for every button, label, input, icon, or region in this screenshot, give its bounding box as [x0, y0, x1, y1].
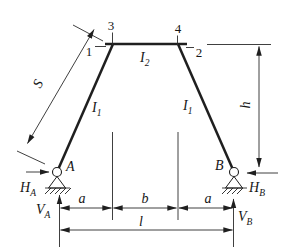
label-dim-b: b — [142, 191, 149, 206]
member-left-leg — [57, 44, 113, 172]
label-reaction-ha: HA — [19, 180, 36, 198]
s-bottom-extension-stub — [17, 151, 45, 164]
frame-figure: 3 4 1 2 A B I1 I1 I2 HA VA HB VB a b a l… — [0, 0, 284, 251]
support-a-hatching — [45, 188, 71, 194]
support-b-hatching — [222, 188, 243, 194]
label-dim-s: S — [30, 77, 47, 90]
label-reaction-va: VA — [36, 202, 51, 220]
label-node-1: 1 — [86, 44, 93, 59]
support-a-triangle — [49, 177, 66, 189]
labels: 3 4 1 2 A B I1 I1 I2 HA VA HB VB a b a l… — [19, 18, 265, 229]
s-top-extension-stub — [73, 25, 103, 41]
support-a-hinge-circle — [53, 168, 62, 177]
frame-members — [57, 33, 234, 173]
label-dim-a-left: a — [79, 191, 86, 206]
label-member-top: I2 — [139, 50, 150, 68]
label-node-2: 2 — [196, 45, 203, 60]
frame-diagram-svg: 3 4 1 2 A B I1 I1 I2 HA VA HB VB a b a l… — [0, 0, 284, 251]
label-reaction-vb: VB — [238, 209, 253, 227]
label-node-4: 4 — [175, 21, 182, 36]
label-member-right: I1 — [182, 98, 192, 116]
label-dim-h: h — [238, 102, 253, 109]
label-joint-b: B — [215, 158, 224, 173]
label-member-left: I1 — [91, 100, 101, 118]
label-reaction-hb: HB — [248, 180, 265, 198]
support-b — [222, 168, 247, 195]
label-joint-a: A — [65, 159, 75, 174]
support-b-hinge-circle — [230, 168, 239, 177]
label-dim-a-right: a — [205, 191, 212, 206]
support-b-triangle — [226, 177, 243, 189]
label-dim-l: l — [139, 214, 143, 229]
label-node-3: 3 — [108, 18, 115, 33]
